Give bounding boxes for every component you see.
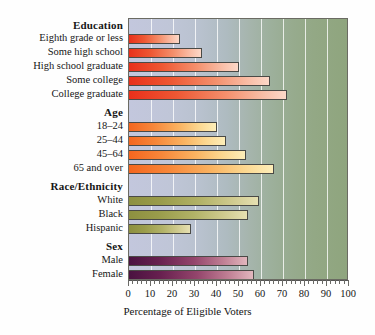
axis-tick-minor bbox=[141, 280, 142, 284]
bar-18-24 bbox=[129, 122, 217, 132]
row-label-age-25-44: 25–44 bbox=[0, 135, 123, 146]
bar-row bbox=[129, 76, 348, 86]
bar-male bbox=[129, 256, 248, 266]
bar-row bbox=[129, 48, 348, 58]
axis-tick-minor bbox=[190, 280, 191, 284]
row-label-some-high-school: Some high school bbox=[0, 47, 123, 58]
bar-65-and-over bbox=[129, 164, 274, 174]
row-label-high-school-graduate: High school graduate bbox=[0, 61, 123, 72]
axis-tick-minor bbox=[225, 280, 226, 284]
bar-some-college bbox=[129, 76, 270, 86]
axis-tick-minor bbox=[339, 280, 340, 284]
axis-tick-minor bbox=[212, 280, 213, 284]
gridline bbox=[173, 19, 174, 279]
bar-row bbox=[129, 90, 348, 100]
axis-tick-minor bbox=[344, 280, 345, 284]
axis-tick-minor bbox=[322, 280, 323, 284]
group-heading-age: Age bbox=[0, 107, 123, 118]
bar-row bbox=[129, 164, 348, 174]
bar-row bbox=[129, 150, 348, 160]
bar-college-graduate bbox=[129, 90, 287, 100]
plot-area bbox=[128, 18, 348, 280]
bar-row bbox=[129, 122, 348, 132]
axis-tick-minor bbox=[229, 280, 230, 284]
axis-tick-minor bbox=[247, 280, 248, 284]
axis-tick-minor bbox=[181, 280, 182, 284]
axis-tick-minor bbox=[264, 280, 265, 284]
axis-tick-minor bbox=[154, 280, 155, 284]
axis-tick-major bbox=[282, 280, 283, 286]
axis-tick-minor bbox=[168, 280, 169, 284]
gridline bbox=[261, 19, 262, 279]
gridline bbox=[151, 19, 152, 279]
row-label-college-graduate: College graduate bbox=[0, 89, 123, 100]
axis-tick-minor bbox=[278, 280, 279, 284]
axis-tick-minor bbox=[330, 280, 331, 284]
axis-tick-minor bbox=[176, 280, 177, 284]
axis-tick-major bbox=[128, 280, 129, 286]
x-tick-label: 40 bbox=[211, 288, 222, 299]
x-tick-label: 0 bbox=[125, 288, 130, 299]
bar-eighth-grade-or-less bbox=[129, 34, 180, 44]
row-label-black: Black bbox=[0, 209, 123, 220]
bar-black bbox=[129, 210, 248, 220]
axis-tick-major bbox=[326, 280, 327, 286]
row-label-female: Female bbox=[0, 269, 123, 280]
row-label-hispanic: Hispanic bbox=[0, 223, 123, 234]
row-label-some-college: Some college bbox=[0, 75, 123, 86]
bar-row bbox=[129, 62, 348, 72]
x-tick-label: 100 bbox=[340, 288, 356, 299]
axis-tick-minor bbox=[203, 280, 204, 284]
axis-tick-minor bbox=[286, 280, 287, 284]
row-label-eighth-grade-or-less: Eighth grade or less bbox=[0, 33, 123, 44]
bar-some-high-school bbox=[129, 48, 202, 58]
bar-row bbox=[129, 256, 348, 266]
gridline bbox=[195, 19, 196, 279]
axis-tick-minor bbox=[269, 280, 270, 284]
x-tick-label: 90 bbox=[321, 288, 332, 299]
axis-tick-major bbox=[304, 280, 305, 286]
bar-row bbox=[129, 210, 348, 220]
axis-tick-minor bbox=[335, 280, 336, 284]
bar-white bbox=[129, 196, 259, 206]
row-label-white: White bbox=[0, 195, 123, 206]
axis-tick-major bbox=[172, 280, 173, 286]
bar-row bbox=[129, 136, 348, 146]
axis-tick-minor bbox=[313, 280, 314, 284]
x-tick-label: 70 bbox=[277, 288, 288, 299]
axis-tick-minor bbox=[198, 280, 199, 284]
bar-high-school-graduate bbox=[129, 62, 239, 72]
axis-tick-minor bbox=[132, 280, 133, 284]
axis-tick-minor bbox=[273, 280, 274, 284]
x-tick-label: 80 bbox=[299, 288, 310, 299]
bar-row bbox=[129, 270, 348, 280]
voter-turnout-bar-chart: Education Eighth grade or less Some high… bbox=[0, 0, 375, 335]
axis-tick-minor bbox=[163, 280, 164, 284]
x-tick-label: 10 bbox=[145, 288, 156, 299]
axis-tick-major bbox=[238, 280, 239, 286]
gridline bbox=[283, 19, 284, 279]
gridline bbox=[217, 19, 218, 279]
x-tick-label: 20 bbox=[167, 288, 178, 299]
x-axis-title: Percentage of Eligible Voters bbox=[0, 305, 375, 317]
row-label-age-65-and-over: 65 and over bbox=[0, 163, 123, 174]
bar-female bbox=[129, 270, 254, 280]
axis-tick-major bbox=[216, 280, 217, 286]
x-tick-label: 30 bbox=[189, 288, 200, 299]
axis-tick-minor bbox=[317, 280, 318, 284]
x-tick-label: 60 bbox=[255, 288, 266, 299]
group-heading-sex: Sex bbox=[0, 241, 123, 252]
axis-tick-minor bbox=[159, 280, 160, 284]
axis-tick-minor bbox=[300, 280, 301, 284]
bar-25-44 bbox=[129, 136, 226, 146]
axis-tick-minor bbox=[251, 280, 252, 284]
axis-tick-minor bbox=[295, 280, 296, 284]
axis-tick-minor bbox=[234, 280, 235, 284]
group-heading-race-ethnicity: Race/Ethnicity bbox=[0, 181, 123, 192]
bar-hispanic bbox=[129, 224, 191, 234]
bar-row bbox=[129, 224, 348, 234]
axis-tick-minor bbox=[146, 280, 147, 284]
axis-tick-minor bbox=[220, 280, 221, 284]
bar-row bbox=[129, 196, 348, 206]
bar-45-64 bbox=[129, 150, 246, 160]
